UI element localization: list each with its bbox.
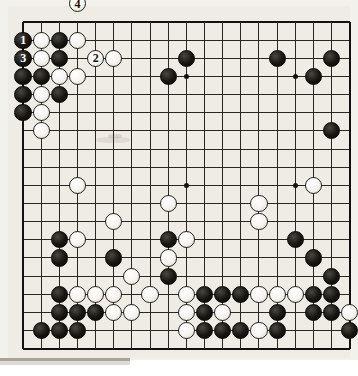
go-stone[interactable] [87,304,104,321]
go-stone[interactable] [105,249,122,266]
go-stone[interactable] [51,231,68,248]
go-stone[interactable] [14,86,31,103]
go-stone[interactable] [14,104,31,121]
go-stone[interactable] [33,86,50,103]
go-stone[interactable] [250,213,267,230]
go-stone[interactable] [51,322,68,339]
go-stone[interactable] [33,122,50,139]
go-stone[interactable] [305,177,322,194]
go-stone[interactable] [232,286,249,303]
go-stone[interactable] [269,286,286,303]
go-stone[interactable] [178,286,195,303]
go-stone[interactable] [69,231,86,248]
go-stone[interactable] [323,122,340,139]
go-stone[interactable] [305,286,322,303]
go-stone[interactable] [123,268,140,285]
page-root: 1234 [0,0,358,376]
go-stone[interactable] [196,304,213,321]
go-stone[interactable] [178,231,195,248]
go-stone[interactable] [105,213,122,230]
go-stone[interactable] [269,50,286,67]
go-stone[interactable] [51,286,68,303]
go-stone[interactable] [196,286,213,303]
go-stone[interactable] [33,50,50,67]
go-stone[interactable] [51,32,68,49]
go-stone[interactable] [160,249,177,266]
go-stone[interactable] [178,322,195,339]
go-stone[interactable] [250,195,267,212]
go-stone[interactable] [69,286,86,303]
go-stone[interactable] [51,304,68,321]
go-stone[interactable] [305,304,322,321]
go-stone[interactable] [178,304,195,321]
go-stone[interactable] [250,286,267,303]
go-stone[interactable] [105,286,122,303]
go-stone[interactable] [69,32,86,49]
go-stone-numbered[interactable]: 2 [87,50,104,67]
star-point [184,74,189,79]
go-stone[interactable] [178,50,195,67]
go-board-area[interactable]: 1234 [8,6,350,358]
go-stone[interactable] [87,286,104,303]
move-number-label: 3 [15,51,30,66]
go-stone[interactable] [160,268,177,285]
grid-line-vertical [349,22,351,349]
go-stone[interactable] [341,304,358,321]
go-stone[interactable] [323,286,340,303]
go-stone[interactable] [196,322,213,339]
go-stone[interactable] [287,286,304,303]
go-board-grid[interactable]: 1234 [8,6,350,358]
go-stone[interactable] [269,304,286,321]
go-stone[interactable] [214,304,231,321]
go-stone[interactable] [305,68,322,85]
go-stone[interactable] [323,50,340,67]
go-stone[interactable] [123,304,140,321]
go-stone[interactable] [33,322,50,339]
go-stone[interactable] [141,286,158,303]
go-stone[interactable] [69,68,86,85]
star-point [184,183,189,188]
go-stone[interactable] [51,68,68,85]
go-stone[interactable] [33,32,50,49]
go-stone-numbered[interactable]: 4 [69,0,86,12]
go-stone[interactable] [160,195,177,212]
go-stone[interactable] [160,231,177,248]
go-stone[interactable] [232,322,249,339]
go-stone[interactable] [33,68,50,85]
go-stone[interactable] [323,268,340,285]
go-stone[interactable] [250,322,267,339]
move-number-label: 2 [88,51,103,66]
grid-line-vertical [131,22,132,349]
go-stone[interactable] [69,304,86,321]
go-stone[interactable] [287,231,304,248]
go-stone[interactable] [105,304,122,321]
go-stone[interactable] [214,286,231,303]
go-stone[interactable] [160,68,177,85]
go-stone[interactable] [269,322,286,339]
go-stone[interactable] [214,322,231,339]
go-stone[interactable] [33,104,50,121]
move-number-label: 4 [70,0,85,11]
go-stone[interactable] [51,50,68,67]
star-point [293,183,298,188]
go-stone[interactable] [105,50,122,67]
go-stone[interactable] [305,249,322,266]
go-stone[interactable] [341,322,358,339]
page-edge-shadow-2 [0,361,130,365]
go-stone[interactable] [69,322,86,339]
move-number-label: 1 [15,33,30,48]
star-point [293,74,298,79]
go-stone-numbered[interactable]: 3 [14,50,31,67]
go-stone[interactable] [51,249,68,266]
go-stone[interactable] [51,86,68,103]
scan-smudge [108,134,122,138]
go-stone[interactable] [14,68,31,85]
go-stone-numbered[interactable]: 1 [14,32,31,49]
go-stone[interactable] [69,177,86,194]
go-stone[interactable] [323,304,340,321]
